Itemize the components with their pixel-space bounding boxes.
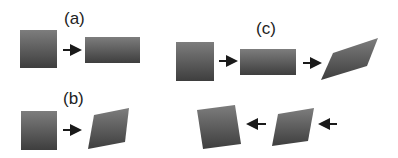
- panel-a-rectangle: [85, 37, 140, 63]
- panel-b-parallelogram: [88, 108, 129, 149]
- transform-diagram: [0, 0, 398, 158]
- panel-c-square: [176, 42, 214, 81]
- panel-c-rotated-square: [197, 105, 241, 149]
- panel-c-rotated-parallelogram: [272, 108, 314, 146]
- panel-c-parallelogram: [321, 38, 378, 80]
- panel-a-label: (a): [64, 9, 85, 29]
- panel-c-label: (c): [256, 19, 276, 39]
- panel-b-label: (b): [63, 89, 84, 109]
- panel-c-rectangle: [240, 49, 296, 75]
- panel-a-square: [20, 30, 57, 68]
- panel-b-square: [21, 111, 57, 150]
